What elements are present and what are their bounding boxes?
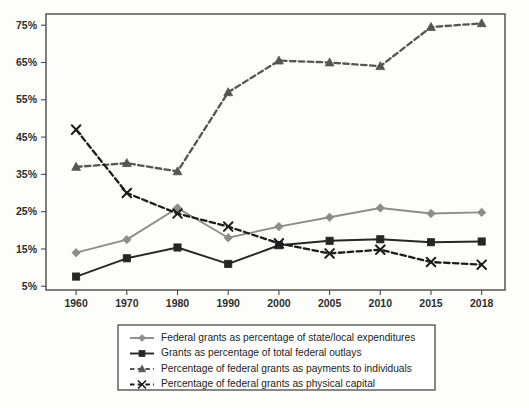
y-tick-label: 35%: [16, 168, 38, 180]
y-tick-label: 5%: [22, 280, 38, 292]
x-tick-label: 2015: [419, 297, 443, 309]
x-tick-label: 2005: [318, 297, 342, 309]
x-tick-label: 1970: [115, 297, 139, 309]
legend-label: Grants as percentage of total federal ou…: [161, 347, 361, 358]
legend-label: Percentage of federal grants as payments…: [161, 363, 412, 374]
marker-square: [139, 351, 145, 357]
marker-square: [427, 239, 434, 246]
x-tick-label: 1980: [166, 297, 190, 309]
marker-square: [73, 273, 80, 280]
y-tick-label: 75%: [16, 19, 38, 31]
legend-label: Percentage of federal grants as physical…: [161, 378, 375, 389]
line-chart: 5%15%25%35%45%55%65%75% 1960197019801990…: [0, 0, 529, 408]
y-tick-label: 45%: [16, 131, 38, 143]
x-tick-label: 2000: [267, 297, 291, 309]
x-tick-label: 2010: [369, 297, 393, 309]
legend-entry-0[interactable]: Federal grants as percentage of state/lo…: [130, 332, 415, 343]
legend-entry-3[interactable]: Percentage of federal grants as physical…: [130, 378, 375, 389]
chart-figure: 5%15%25%35%45%55%65%75% 1960197019801990…: [0, 0, 529, 408]
marker-square: [377, 236, 384, 243]
y-tick-label: 15%: [16, 243, 38, 255]
legend-entry-1[interactable]: Grants as percentage of total federal ou…: [130, 347, 361, 358]
y-tick-label: 55%: [16, 93, 38, 105]
marker-square: [478, 238, 485, 245]
marker-square: [123, 255, 130, 262]
x-tick-label: 1960: [64, 297, 88, 309]
legend-entry-2[interactable]: Percentage of federal grants as payments…: [130, 363, 412, 374]
x-axis-tick-labels: 196019701980199020002005201020152018: [64, 297, 493, 309]
marker-square: [326, 237, 333, 244]
y-tick-label: 25%: [16, 205, 38, 217]
x-tick-label: 2018: [470, 297, 494, 309]
chart-legend: Federal grants as percentage of state/lo…: [118, 325, 435, 390]
legend-label: Federal grants as percentage of state/lo…: [161, 332, 415, 343]
marker-square: [174, 244, 181, 251]
x-tick-label: 1990: [217, 297, 241, 309]
page-footer-cropped-text: [0, 399, 529, 408]
y-tick-label: 65%: [16, 56, 38, 68]
marker-square: [225, 260, 232, 267]
